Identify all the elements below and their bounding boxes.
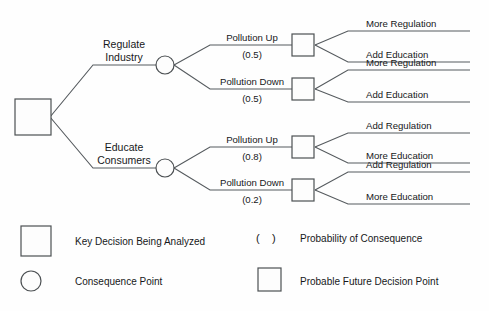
decision-label-educate-line2: Consumers xyxy=(97,154,151,166)
consequence-label-regulate-down: Pollution Down xyxy=(220,76,284,87)
consequence-label-educate-down: Pollution Down xyxy=(220,177,284,188)
legend-parentheses-icon: ( xyxy=(256,232,260,244)
legend-parentheses-icon-close: ) xyxy=(272,232,276,244)
terminal-label-4: Add Education xyxy=(366,89,428,100)
future-decision-node-regulate-up[interactable] xyxy=(292,34,314,56)
root-decision-node[interactable] xyxy=(15,99,51,135)
consequence-label-regulate-up: Pollution Up xyxy=(226,32,278,43)
edge-regulate-to-pollution-up xyxy=(174,45,292,65)
probability-educate-down: (0.2) xyxy=(242,194,262,205)
legend-label-consequence-point: Consequence Point xyxy=(75,276,163,287)
legend-large-square-icon xyxy=(21,226,51,256)
probability-educate-up: (0.8) xyxy=(242,151,262,162)
consequence-label-educate-up: Pollution Up xyxy=(226,134,278,145)
legend: Key Decision Being Analyzed ( ) Probabil… xyxy=(21,226,439,291)
edge-educate-to-pollution-up xyxy=(174,147,292,168)
edge-terminal-1 xyxy=(315,31,470,45)
edge-terminal-5 xyxy=(315,133,470,147)
decision-label-regulate-line2: Industry xyxy=(105,51,143,63)
future-decision-node-regulate-down[interactable] xyxy=(292,78,314,100)
future-decision-node-educate-up[interactable] xyxy=(292,136,314,158)
future-decision-node-educate-down[interactable] xyxy=(292,179,314,201)
decision-label-educate-line1: Educate xyxy=(105,141,144,153)
probability-regulate-down: (0.5) xyxy=(242,93,262,104)
terminal-label-7: Add Regulation xyxy=(366,159,432,170)
legend-circle-icon xyxy=(21,271,41,291)
terminal-label-5: Add Regulation xyxy=(366,120,432,131)
decision-label-regulate-line1: Regulate xyxy=(103,38,145,50)
consequence-point-educate[interactable] xyxy=(156,159,174,177)
edge-terminal-3 xyxy=(315,70,470,89)
terminal-label-8: More Education xyxy=(366,191,433,202)
legend-label-probability: Probability of Consequence xyxy=(300,233,423,244)
decision-tree-diagram: Regulate Industry Educate Consumers Poll… xyxy=(0,0,489,311)
edge-root-to-regulate xyxy=(50,65,156,117)
edge-terminal-7 xyxy=(315,172,470,190)
terminal-label-1: More Regulation xyxy=(366,18,436,29)
legend-small-square-icon xyxy=(258,268,281,291)
probability-regulate-up: (0.5) xyxy=(242,49,262,60)
legend-label-future-decision: Probable Future Decision Point xyxy=(300,276,439,287)
legend-label-key-decision: Key Decision Being Analyzed xyxy=(75,236,205,247)
terminal-label-3: More Regulation xyxy=(366,57,436,68)
consequence-point-regulate[interactable] xyxy=(156,56,174,74)
